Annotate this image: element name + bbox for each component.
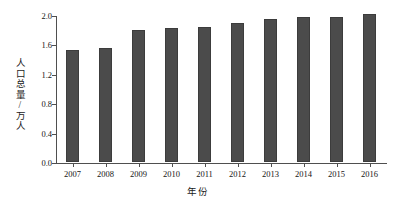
x-axis-tick-label: 2015: [328, 170, 345, 179]
bar: [198, 27, 211, 162]
y-axis-line: [56, 16, 57, 164]
y-axis-title: 人口总量/万人: [11, 50, 27, 140]
y-axis-tick-label: 0.8: [28, 100, 52, 109]
x-axis-tick-label: 2007: [64, 170, 81, 179]
y-axis-tick-label: 0.4: [28, 129, 52, 138]
bar: [297, 17, 310, 162]
x-axis-tick-label: 2016: [361, 170, 378, 179]
y-axis-tick-mark: [52, 75, 57, 76]
x-axis-title: 年份: [0, 184, 395, 198]
y-axis-tick-label: 1.6: [28, 41, 52, 50]
x-axis-tick-mark: [205, 163, 206, 167]
bar-chart-figure: 人口总量/万人 0.00.40.81.21.62.0 2007200820092…: [0, 0, 395, 209]
bar: [132, 30, 145, 162]
x-axis-tick-label: 2014: [295, 170, 312, 179]
bar: [264, 19, 277, 162]
x-axis-tick-label: 2010: [163, 170, 180, 179]
bar: [231, 23, 244, 162]
y-axis-tick-label: 1.2: [28, 71, 52, 80]
y-axis-tick-label: 0.0: [28, 159, 52, 168]
bar: [330, 17, 343, 162]
plot-area: 2007200820092010201120122013201420152016: [56, 16, 386, 163]
bar: [99, 48, 112, 162]
bar: [363, 14, 376, 162]
x-axis-tick-mark: [106, 163, 107, 167]
bar: [165, 28, 178, 163]
x-axis-tick-label: 2013: [262, 170, 279, 179]
x-axis-tick-label: 2012: [229, 170, 246, 179]
x-axis-tick-label: 2009: [130, 170, 147, 179]
y-axis-tick-mark: [52, 104, 57, 105]
x-axis-tick-mark: [304, 163, 305, 167]
y-axis-tick-label: 2.0: [28, 12, 52, 21]
x-axis-tick-mark: [337, 163, 338, 167]
x-axis-tick-mark: [73, 163, 74, 167]
y-axis-tick-mark: [52, 163, 57, 164]
y-axis-tick-mark: [52, 134, 57, 135]
x-axis-tick-mark: [139, 163, 140, 167]
x-axis-tick-mark: [172, 163, 173, 167]
x-axis-tick-mark: [238, 163, 239, 167]
x-axis-tick-label: 2008: [97, 170, 114, 179]
y-axis-tick-mark: [52, 45, 57, 46]
x-axis-tick-mark: [370, 163, 371, 167]
y-axis-tick-labels: 0.00.40.81.21.62.0: [26, 0, 52, 209]
y-axis-tick-mark: [52, 16, 57, 17]
x-axis-tick-mark: [271, 163, 272, 167]
bar: [66, 50, 79, 162]
y-axis-title-text: 人口总量/万人: [14, 58, 24, 132]
x-axis-tick-label: 2011: [196, 170, 213, 179]
